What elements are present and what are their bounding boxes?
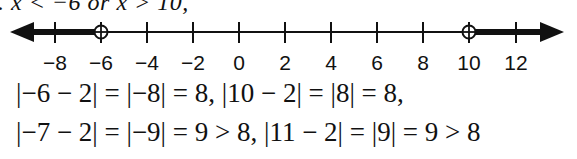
arrow-left-icon xyxy=(10,22,34,42)
number-line: −8−6−4−2024681012 xyxy=(0,0,577,80)
arrow-right-icon xyxy=(540,22,564,42)
tick-label: −2 xyxy=(181,51,205,74)
tick-label: −6 xyxy=(89,51,113,74)
tick-label: 4 xyxy=(325,51,337,74)
tick-label: 0 xyxy=(233,51,245,74)
equation-line-1: |−6 − 2| = |−8| = 8, |10 − 2| = |8| = 8, xyxy=(16,78,404,109)
tick-label: 6 xyxy=(371,51,383,74)
tick-label: 10 xyxy=(457,51,480,74)
tick-label: 2 xyxy=(279,51,291,74)
tick-label: 12 xyxy=(504,51,527,74)
equation-line-2: |−7 − 2| = |−9| = 9 > 8, |11 − 2| = |9| … xyxy=(16,117,481,148)
tick-label: 8 xyxy=(417,51,429,74)
open-point-10 xyxy=(462,24,476,40)
open-point-neg6 xyxy=(94,24,108,40)
tick-label: −4 xyxy=(135,51,159,74)
tick-label: −8 xyxy=(43,51,67,74)
